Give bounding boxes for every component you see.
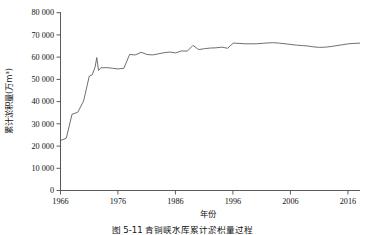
y-tick-label-60000: 60 000 [31, 53, 54, 62]
x-tick-label-2006: 2006 [282, 197, 298, 206]
figure-caption: 图 5-11 青铜峡水库累计淤积量过程 [0, 226, 365, 235]
y-axis-title: 累计淤积量(万m³) [4, 68, 14, 134]
x-axis-title: 年份 [200, 209, 217, 219]
chart-canvas: 0 10 000 20 000 30 000 40 000 50 000 60 … [0, 0, 365, 235]
x-tick-label-2016: 2016 [340, 197, 356, 206]
y-axis-tick-labels: 0 10 000 20 000 30 000 40 000 50 000 60 … [31, 8, 54, 195]
y-tick-label-50000: 50 000 [31, 75, 54, 84]
x-axis-tick-labels: 1966 1976 1986 1996 2006 2016 [52, 197, 356, 206]
data-series-line [61, 43, 361, 191]
y-tick-label-80000: 80 000 [31, 8, 54, 17]
x-tick-label-1986: 1986 [167, 197, 183, 206]
figure-container: 0 10 000 20 000 30 000 40 000 50 000 60 … [0, 0, 365, 235]
y-tick-label-40000: 40 000 [31, 97, 54, 106]
y-tick-label-20000: 20 000 [31, 142, 54, 151]
y-tick-label-30000: 30 000 [31, 120, 54, 129]
x-axis-ticks [61, 191, 348, 195]
x-tick-label-1996: 1996 [225, 197, 241, 206]
y-tick-label-10000: 10 000 [31, 164, 54, 173]
y-tick-label-70000: 70 000 [31, 31, 54, 40]
y-axis-ticks [57, 13, 61, 191]
y-tick-label-0: 0 [50, 186, 54, 195]
x-tick-label-1966: 1966 [52, 197, 68, 206]
x-tick-label-1976: 1976 [110, 197, 126, 206]
